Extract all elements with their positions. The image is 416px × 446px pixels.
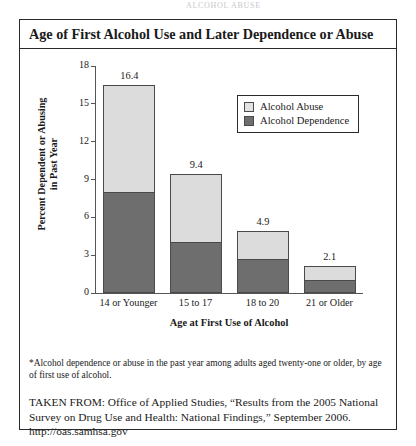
bar-segment-dependence[interactable] (170, 242, 222, 293)
y-tick-label: 18 (67, 59, 89, 70)
bar-segment-abuse[interactable] (304, 266, 356, 280)
y-axis-label: Percent Dependent or Abusing in Past Yea… (36, 89, 60, 239)
y-tick-label: 3 (67, 248, 89, 259)
x-tick-label: 14 or Younger (96, 297, 162, 308)
y-tick-label: 0 (67, 286, 89, 297)
legend-item-dependence: Alcohol Dependence (244, 114, 349, 128)
legend-item-abuse: Alcohol Abuse (244, 100, 349, 114)
figure-title: Age of First Alcohol Use and Later Depen… (20, 20, 396, 49)
bar-segment-dependence[interactable] (237, 259, 289, 293)
bar-slot: 16.4 (103, 66, 155, 293)
x-tick-label: 21 or Older (297, 297, 363, 308)
bar-segment-abuse[interactable] (103, 85, 155, 191)
bar-value-label: 4.9 (256, 216, 269, 227)
bar-stack[interactable] (170, 174, 222, 293)
x-tick-label: 15 to 17 (163, 297, 229, 308)
y-tick-label: 9 (67, 173, 89, 184)
y-tick-label: 15 (67, 97, 89, 108)
figure-page: ALCOHOL ABUSE Age of First Alcohol Use a… (0, 0, 416, 446)
bar-value-label: 9.4 (190, 159, 203, 170)
bar-segment-abuse[interactable] (170, 174, 222, 242)
bar-segment-dependence[interactable] (103, 192, 155, 293)
bar-value-label: 2.1 (323, 251, 336, 262)
figure-source: TAKEN FROM: Office of Applied Studies, “… (29, 395, 389, 439)
legend-swatch-dependence-icon (244, 116, 254, 126)
figure-frame: Age of First Alcohol Use and Later Depen… (19, 19, 397, 430)
y-tick-label: 6 (67, 210, 89, 221)
bar-stack[interactable] (103, 85, 155, 293)
bar-value-label: 16.4 (120, 70, 138, 81)
y-tick-label: 12 (67, 135, 89, 146)
chart-legend: Alcohol Abuse Alcohol Dependence (237, 95, 359, 133)
legend-label-dependence: Alcohol Dependence (260, 114, 349, 128)
bar-segment-abuse[interactable] (237, 231, 289, 259)
chart-area: Percent Dependent or Abusing in Past Yea… (20, 49, 398, 344)
legend-swatch-abuse-icon (244, 102, 254, 112)
bar-slot: 9.4 (170, 66, 222, 293)
x-axis-label: Age at First Use of Alcohol (95, 317, 363, 328)
legend-label-abuse: Alcohol Abuse (260, 100, 323, 114)
running-header: ALCOHOL ABUSE (186, 0, 411, 9)
x-tick-label: 18 to 20 (230, 297, 296, 308)
bar-segment-dependence[interactable] (304, 280, 356, 293)
bar-stack[interactable] (304, 266, 356, 293)
figure-footnote: *Alcohol dependence or abuse in the past… (29, 357, 387, 382)
x-axis-ticks: 14 or Younger15 to 1718 to 2021 or Older (95, 297, 363, 308)
bar-stack[interactable] (237, 231, 289, 293)
